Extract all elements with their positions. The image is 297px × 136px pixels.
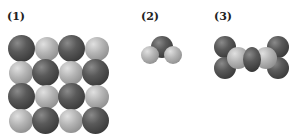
dark-atom xyxy=(32,107,59,134)
light-atom xyxy=(59,109,83,133)
dark-atom xyxy=(82,107,109,134)
light-atom xyxy=(9,109,33,133)
bridged-molecule-diagram xyxy=(0,0,297,90)
dark-atom xyxy=(243,47,261,72)
